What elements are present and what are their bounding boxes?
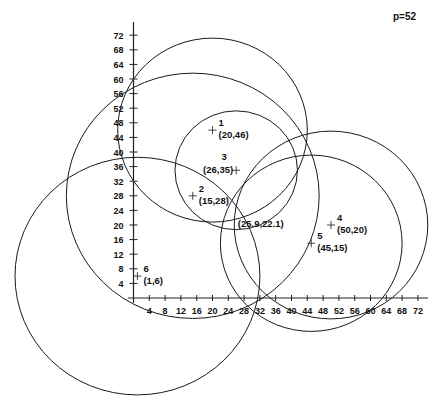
x-tick-label: 32 (255, 306, 265, 316)
y-tick-label: 4 (118, 279, 123, 289)
x-tick-label: 68 (397, 306, 407, 316)
y-tick-label: 44 (113, 133, 123, 143)
x-tick-label: 12 (176, 306, 186, 316)
point-coord-label: (20,46) (219, 129, 249, 140)
result-point-label: (25.9,22.1) (238, 218, 284, 229)
x-tick-label: 4 (147, 306, 152, 316)
point-id-label: 2 (199, 183, 204, 194)
y-tick-label: 40 (113, 148, 123, 158)
y-tick-label: 64 (113, 60, 123, 70)
point-1: 1(20,46) (209, 117, 249, 140)
x-tick-label: 24 (223, 306, 233, 316)
y-tick-label: 28 (113, 191, 123, 201)
points-layer: 1(20,46)2(15,28)3(26,35)4(50,20)5(45,15)… (133, 117, 367, 286)
x-tick-label: 64 (381, 306, 391, 316)
point-3: 3(26,35) (203, 151, 240, 175)
x-tick-label: 36 (271, 306, 281, 316)
point-coord-label: (50,20) (337, 224, 367, 235)
y-tick-label: 36 (113, 162, 123, 172)
y-tick-label: 72 (113, 31, 123, 41)
point-id-label: 1 (219, 117, 225, 128)
x-tick-label: 56 (350, 306, 360, 316)
point-coord-label: (45,15) (317, 242, 347, 253)
x-tick-label: 60 (365, 306, 375, 316)
point-id-label: 3 (222, 151, 227, 162)
x-tick-label: 52 (334, 306, 344, 316)
point-6: 6(1,6) (133, 263, 163, 286)
circles-layer (15, 38, 428, 395)
y-tick-label: 20 (113, 221, 123, 231)
y-tick-label: 8 (118, 264, 123, 274)
y-tick-label: 12 (113, 250, 123, 260)
y-tick-label: 48 (113, 118, 123, 128)
point-coord-label: (15,28) (199, 195, 229, 206)
x-tick-label: 48 (318, 306, 328, 316)
x-tick-label: 8 (163, 306, 168, 316)
y-tick-label: 68 (113, 45, 123, 55)
axes-layer: 4812162024283236404448525660646872481216… (113, 22, 428, 316)
chart-canvas: 4812162024283236404448525660646872481216… (0, 0, 441, 401)
y-tick-label: 32 (113, 177, 123, 187)
p-annotation: p=52 (393, 11, 417, 22)
x-tick-label: 20 (207, 306, 217, 316)
x-tick-label: 72 (413, 306, 423, 316)
x-tick-label: 16 (192, 306, 202, 316)
point-coord-label: (1,6) (143, 275, 163, 286)
y-tick-label: 24 (113, 206, 123, 216)
x-tick-label: 40 (286, 306, 296, 316)
point-2: 2(15,28) (189, 183, 229, 206)
x-tick-label: 44 (302, 306, 312, 316)
point-id-label: 5 (317, 230, 323, 241)
point-4: 4(50,20) (327, 212, 367, 235)
circle-intersection-chart: 4812162024283236404448525660646872481216… (0, 0, 441, 401)
x-tick-label: 28 (239, 306, 249, 316)
y-tick-label: 16 (113, 235, 123, 245)
y-tick-label: 56 (113, 89, 123, 99)
y-tick-label: 60 (113, 75, 123, 85)
point-id-label: 4 (337, 212, 343, 223)
point-id-label: 6 (143, 263, 148, 274)
y-tick-label: 52 (113, 104, 123, 114)
point-coord-label: (26,35) (203, 164, 233, 175)
